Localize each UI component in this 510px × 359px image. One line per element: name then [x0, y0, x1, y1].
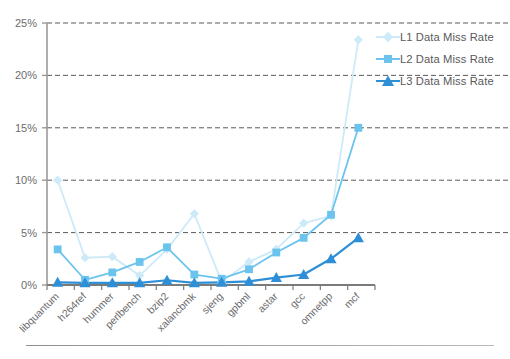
- x-axis-category-label: sjeng: [200, 290, 225, 315]
- series-lines-group: [58, 40, 359, 283]
- y-axis-tick-label: 15%: [15, 122, 37, 134]
- slide-divider-rule: [26, 345, 494, 346]
- y-axis-tick-label: 20%: [15, 69, 37, 81]
- x-axis-category-labels-group: libquantumh264refhummerperlbenchbzip2xal…: [17, 290, 361, 334]
- legend-triangle-icon: [376, 73, 400, 89]
- x-axis-category-label: mcf: [342, 291, 362, 311]
- y-axis-tick-label: 0%: [21, 279, 37, 291]
- data-point-marker: [300, 234, 308, 242]
- x-axis-category-label: astar: [256, 290, 280, 314]
- legend-square-icon: [376, 51, 400, 67]
- legend-label-l1: L1 Data Miss Rate: [400, 31, 494, 43]
- data-point-marker: [190, 271, 198, 279]
- legend-item-l1[interactable]: L1 Data Miss Rate: [376, 26, 510, 48]
- x-axis-category-label: bzip2: [145, 290, 170, 315]
- legend-item-l3[interactable]: L3 Data Miss Rate: [376, 70, 510, 92]
- legend-diamond-icon: [376, 29, 400, 45]
- data-point-marker: [108, 269, 116, 277]
- data-point-marker: [80, 253, 89, 262]
- data-point-marker: [272, 249, 280, 257]
- x-axis-category-label: gcc: [288, 291, 307, 310]
- slide-canvas: 0%5%10%15%20%25% libquantumh264refhummer…: [0, 0, 510, 359]
- data-point-marker: [136, 258, 144, 266]
- x-axis-category-label: gpbml: [225, 291, 253, 319]
- legend-label-l2: L2 Data Miss Rate: [400, 53, 494, 65]
- series-line-l1-data-miss-rate: [58, 40, 359, 282]
- y-axis-tick-labels-group: 0%5%10%15%20%25%: [15, 17, 37, 291]
- y-axis-tick-label: 5%: [21, 227, 37, 239]
- data-point-marker: [353, 232, 364, 242]
- data-point-marker: [245, 265, 253, 273]
- legend-label-l3: L3 Data Miss Rate: [400, 75, 494, 87]
- data-point-marker: [327, 211, 335, 219]
- y-axis-tick-label: 25%: [15, 17, 37, 29]
- x-axis-category-label: libquantum: [17, 291, 61, 335]
- data-point-marker: [53, 176, 62, 185]
- y-axis-tick-label: 10%: [15, 174, 37, 186]
- data-point-marker: [354, 124, 362, 132]
- data-point-marker: [163, 243, 171, 251]
- chart-legend: L1 Data Miss Rate L2 Data Miss Rate L3 D…: [376, 26, 510, 92]
- data-point-marker: [354, 35, 363, 44]
- data-point-marker: [54, 245, 62, 253]
- legend-item-l2[interactable]: L2 Data Miss Rate: [376, 48, 510, 70]
